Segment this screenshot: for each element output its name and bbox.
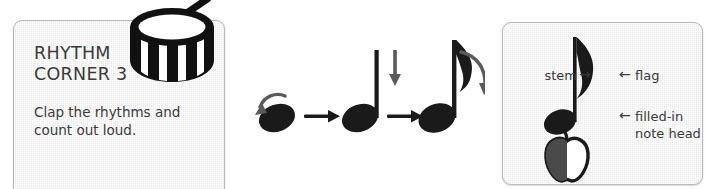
- connector-arrow-2: [387, 110, 423, 123]
- label-filled-in-note-head: filled-in note head: [635, 108, 701, 142]
- note-anatomy-panel: stem → ← flag ← filled-in note head: [502, 22, 703, 185]
- instruction-text: Clap the rhythms and count out loud.: [34, 103, 209, 139]
- label-flag: flag: [635, 67, 659, 84]
- label-stem: stem: [511, 67, 577, 84]
- arrow-right-icon: →: [579, 66, 591, 83]
- arrow-left-note-head-icon: ←: [619, 107, 631, 124]
- note-build-up-diagram: [240, 0, 485, 189]
- connector-arrow-1: [304, 110, 340, 123]
- drum-icon: [122, 0, 228, 94]
- note-head-step: [255, 94, 299, 137]
- apple-icon: [541, 131, 593, 185]
- quarter-note-step: [338, 50, 401, 137]
- eighth-note-step: [414, 40, 485, 138]
- arrow-left-flag-icon: ←: [619, 66, 631, 83]
